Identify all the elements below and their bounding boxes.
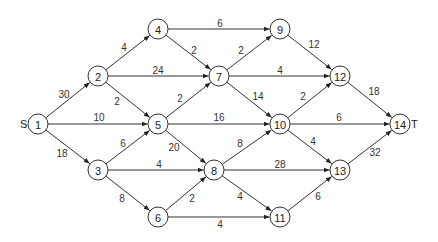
- edge-11-13: [288, 176, 332, 210]
- network-diagram: 3010184242648622162024241482841226461832…: [0, 0, 438, 242]
- edge-6-8: [166, 177, 206, 211]
- edge-weight-label: 6: [120, 138, 126, 149]
- edge-weight-label: 16: [213, 112, 225, 123]
- node-label: 12: [334, 71, 346, 83]
- edge-weight-label: 4: [310, 136, 316, 147]
- node-label: 4: [155, 24, 161, 36]
- source-label: S: [20, 118, 27, 130]
- edge-weight-label: 6: [336, 112, 342, 123]
- edge-weight-label: 20: [168, 142, 180, 153]
- edge-weight-label: 4: [121, 42, 127, 53]
- edge-weight-label: 8: [119, 193, 125, 204]
- edge-weight-label: 2: [191, 45, 197, 56]
- node-14: 14: [390, 114, 410, 134]
- edge-7-9: [227, 35, 272, 69]
- edge-weight-label: 12: [308, 39, 320, 50]
- edge-weight-label: 2: [189, 193, 195, 204]
- edge-weight-label: 28: [274, 159, 286, 170]
- edge-layer: [46, 29, 392, 217]
- node-10: 10: [270, 114, 290, 134]
- edge-weight-label: 10: [93, 112, 105, 123]
- edge-5-7: [166, 82, 211, 117]
- node-label: 6: [155, 212, 161, 224]
- edge-4-7: [166, 35, 211, 69]
- edge-10-12: [288, 83, 332, 118]
- edge-8-11: [222, 176, 271, 211]
- node-9: 9: [270, 19, 290, 39]
- edge-weight-label: 6: [217, 18, 223, 29]
- node-8: 8: [204, 160, 224, 180]
- edge-weight-label: 2: [114, 96, 120, 107]
- edge-weight-label: 14: [252, 91, 264, 102]
- node-label: 9: [277, 24, 283, 36]
- edge-2-5: [106, 82, 150, 117]
- node-label: 14: [394, 119, 406, 131]
- edge-2-4: [106, 35, 150, 69]
- edge-weight-label: 2: [177, 93, 183, 104]
- edge-weight-label: 8: [237, 138, 243, 149]
- edge-3-5: [106, 130, 150, 164]
- sink-label: T: [411, 118, 418, 130]
- node-3: 3: [88, 160, 108, 180]
- node-label: 7: [216, 71, 222, 83]
- edge-weight-label: 4: [277, 65, 283, 76]
- node-12: 12: [330, 66, 350, 86]
- node-label: 3: [95, 165, 101, 177]
- edge-weight-label: 2: [238, 45, 244, 56]
- node-2: 2: [88, 66, 108, 86]
- edge-1-3: [46, 130, 90, 164]
- node-6: 6: [148, 207, 168, 227]
- node-11: 11: [270, 207, 290, 227]
- node-4: 4: [148, 19, 168, 39]
- node-label: 8: [211, 165, 217, 177]
- node-label: 1: [35, 119, 41, 131]
- node-1: 1: [28, 114, 48, 134]
- edge-weight-label: 24: [152, 65, 164, 76]
- edge-weight-label: 2: [300, 91, 306, 102]
- node-label: 2: [95, 71, 101, 83]
- edge-7-10: [227, 82, 272, 117]
- edge-weight-label: 32: [369, 147, 381, 158]
- edge-weight-label: 6: [315, 191, 321, 202]
- edge-8-10: [222, 130, 271, 164]
- edge-weight-label: 30: [58, 89, 70, 100]
- node-label: 10: [274, 119, 286, 131]
- node-label: 13: [334, 165, 346, 177]
- node-13: 13: [330, 160, 350, 180]
- edge-weight-label: 4: [156, 159, 162, 170]
- node-7: 7: [209, 66, 229, 86]
- node-layer: 1234567891011121314: [28, 19, 410, 227]
- edge-weight-label: 4: [217, 219, 223, 230]
- edge-3-6: [106, 176, 150, 210]
- node-5: 5: [148, 114, 168, 134]
- node-label: 11: [274, 212, 285, 224]
- edge-weight-label: 4: [237, 191, 243, 202]
- edge-weight-label: 18: [56, 148, 68, 159]
- node-label: 5: [155, 119, 161, 131]
- edge-weight-label: 18: [368, 86, 380, 97]
